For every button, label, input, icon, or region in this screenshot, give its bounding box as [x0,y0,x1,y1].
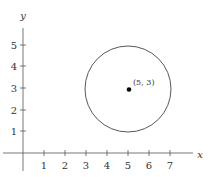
x-tick-label: 5 [125,160,131,171]
x-tick-label: 2 [62,160,68,171]
x-tick-label: 1 [41,160,47,171]
y-tick-label: 1 [11,126,17,137]
x-axis-label: x [197,149,203,160]
coordinate-plane: 1 2 3 4 5 6 7 1 2 3 4 5 x y (5, 3) [0,0,209,177]
center-point-label: (5, 3) [133,78,155,87]
x-tick-label: 4 [104,160,110,171]
y-tick-label: 2 [11,105,17,116]
x-tick-label: 6 [146,160,152,171]
y-tick-label: 3 [11,83,17,94]
x-tick-label: 3 [83,160,89,171]
y-tick-label: 4 [11,61,17,72]
y-tick-label: 5 [11,40,17,51]
center-point [127,87,132,92]
x-tick-label: 7 [167,160,173,171]
y-axis-label: y [19,10,26,21]
